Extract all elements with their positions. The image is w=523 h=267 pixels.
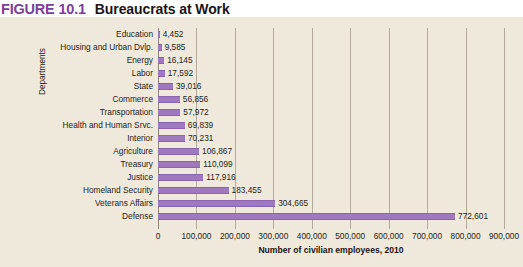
x-tick-label: 200,000 bbox=[220, 230, 250, 243]
bar[interactable] bbox=[158, 122, 185, 128]
x-tick-label: 600,000 bbox=[374, 230, 404, 243]
bar-value-label: 304,665 bbox=[278, 197, 308, 210]
bar-row: State39,016 bbox=[0, 80, 523, 93]
bar-row: Defense772,601 bbox=[0, 210, 523, 223]
bar-value-label: 56,856 bbox=[183, 93, 208, 106]
category-label: Health and Human Srvc. bbox=[63, 119, 153, 132]
bar-row: Treasury110,099 bbox=[0, 158, 523, 171]
bar[interactable] bbox=[158, 57, 164, 63]
bar-row: Education4,452 bbox=[0, 28, 523, 41]
bar[interactable] bbox=[158, 187, 229, 193]
bar-row: Transportation57,972 bbox=[0, 106, 523, 119]
bar-row: Housing and Urban Dvlp.9,585 bbox=[0, 41, 523, 54]
x-tick-label: 0 bbox=[156, 230, 161, 243]
figure-number: FIGURE 10.1 bbox=[0, 1, 86, 17]
bar[interactable] bbox=[158, 200, 275, 206]
bar-value-label: 110,099 bbox=[203, 158, 232, 171]
category-label: Education bbox=[116, 28, 153, 41]
category-label: Transportation bbox=[100, 106, 153, 119]
bar[interactable] bbox=[158, 83, 173, 89]
category-label: Veterans Affairs bbox=[95, 197, 153, 210]
bar-value-label: 772,601 bbox=[458, 210, 488, 223]
bar-value-label: 17,592 bbox=[168, 67, 193, 80]
bar[interactable] bbox=[158, 161, 200, 167]
x-tick-label: 900,000 bbox=[489, 230, 519, 243]
bar[interactable] bbox=[158, 109, 180, 115]
category-label: Homeland Security bbox=[83, 184, 153, 197]
bar-row: Agriculture106,867 bbox=[0, 145, 523, 158]
category-label: Commerce bbox=[112, 93, 153, 106]
category-label: Defense bbox=[122, 210, 153, 223]
bar-value-label: 57,972 bbox=[183, 106, 208, 119]
bar-row: Justice117,916 bbox=[0, 171, 523, 184]
bar-value-label: 117,916 bbox=[206, 171, 235, 184]
x-axis-title: Number of civilian employees, 2010 bbox=[158, 245, 504, 255]
bar-value-label: 70,231 bbox=[188, 132, 213, 145]
bar-value-label: 16,145 bbox=[167, 54, 192, 67]
category-label: Labor bbox=[132, 67, 153, 80]
bar-row: Health and Human Srvc.69,839 bbox=[0, 119, 523, 132]
x-tick-label: 100,000 bbox=[181, 230, 211, 243]
figure-title: Bureaucrats at Work bbox=[95, 1, 230, 17]
x-tick-label: 800,000 bbox=[451, 230, 481, 243]
x-tick-label: 400,000 bbox=[297, 230, 327, 243]
category-label: Justice bbox=[127, 171, 153, 184]
bar[interactable] bbox=[158, 174, 203, 180]
bar-row: Veterans Affairs304,665 bbox=[0, 197, 523, 210]
bar-value-label: 9,585 bbox=[165, 41, 186, 54]
bar[interactable] bbox=[158, 213, 455, 219]
x-tick-label: 700,000 bbox=[412, 230, 442, 243]
bar-row: Energy16,145 bbox=[0, 54, 523, 67]
bar-chart: Departments Education4,452Housing and Ur… bbox=[0, 17, 523, 267]
bar[interactable] bbox=[158, 31, 160, 37]
bar-row: Homeland Security183,455 bbox=[0, 184, 523, 197]
bar-row: Commerce56,856 bbox=[0, 93, 523, 106]
category-label: Housing and Urban Dvlp. bbox=[60, 41, 153, 54]
bar-row: Labor17,592 bbox=[0, 67, 523, 80]
category-label: Energy bbox=[127, 54, 153, 67]
category-label: Treasury bbox=[121, 158, 153, 171]
figure-header: FIGURE 10.1 Bureaucrats at Work bbox=[0, 0, 523, 17]
bar-value-label: 106,867 bbox=[202, 145, 232, 158]
category-label: State bbox=[134, 80, 153, 93]
bar-value-label: 183,455 bbox=[232, 184, 262, 197]
category-label: Interior bbox=[127, 132, 153, 145]
x-tick-label: 500,000 bbox=[335, 230, 365, 243]
bar[interactable] bbox=[158, 44, 162, 50]
bar-value-label: 39,016 bbox=[176, 80, 201, 93]
bar-rows: Education4,452Housing and Urban Dvlp.9,5… bbox=[0, 28, 523, 229]
bar-value-label: 69,839 bbox=[188, 119, 213, 132]
x-tick-label: 300,000 bbox=[258, 230, 288, 243]
category-label: Agriculture bbox=[113, 145, 153, 158]
bar[interactable] bbox=[158, 70, 165, 76]
bar[interactable] bbox=[158, 135, 185, 141]
bar-value-label: 4,452 bbox=[163, 28, 184, 41]
bar[interactable] bbox=[158, 96, 180, 102]
bar[interactable] bbox=[158, 148, 199, 154]
x-axis-tick-labels: 0100,000200,000300,000400,000500,000600,… bbox=[0, 230, 523, 243]
bar-row: Interior70,231 bbox=[0, 132, 523, 145]
